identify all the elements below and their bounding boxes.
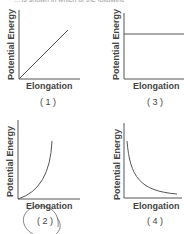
x-axis-label: Elongation — [133, 81, 180, 91]
graph-option-2[interactable]: Potential Energy Elongation ( 2 ) — [0, 117, 92, 234]
graph-3-plot — [92, 0, 184, 117]
y-axis-label: Potential Energy — [5, 126, 15, 197]
x-axis-label: Elongation — [26, 81, 73, 91]
y-axis-label: Potential Energy — [6, 9, 16, 80]
x-axis-label: Elongation — [26, 201, 73, 211]
option-number: ( 3 ) — [147, 97, 163, 107]
y-axis-label: Potential Energy — [112, 129, 122, 200]
graph-option-3[interactable]: Potential Energy Elongation ( 3 ) — [92, 0, 184, 117]
graph-option-1[interactable]: Potential Energy Elongation ( 1 ) — [0, 0, 92, 117]
option-number: ( 1 ) — [40, 97, 56, 107]
option-number: ( 4 ) — [147, 216, 163, 226]
graph-4-plot — [92, 117, 184, 234]
option-number: ( 2 ) — [37, 216, 53, 226]
x-axis-label: Elongation — [133, 201, 180, 211]
y-axis-label: Potential Energy — [111, 9, 121, 80]
graph-option-4[interactable]: Potential Energy Elongation ( 4 ) — [92, 117, 184, 234]
